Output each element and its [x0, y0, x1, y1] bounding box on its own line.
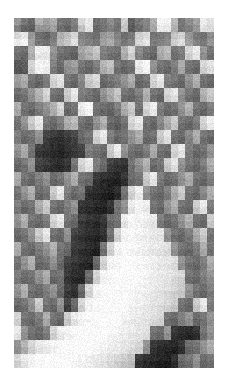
raster-heatmap-figure [14, 18, 214, 368]
raster-heatmap-canvas [14, 18, 214, 368]
